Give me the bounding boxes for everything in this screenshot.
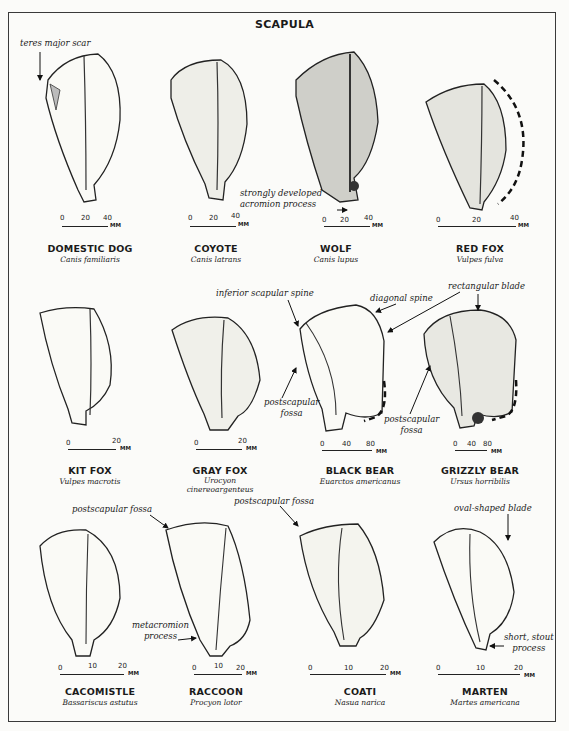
annotation-arrows <box>0 0 569 731</box>
